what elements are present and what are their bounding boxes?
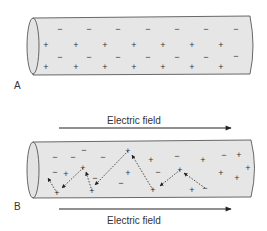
positive-charge: + <box>43 40 48 50</box>
negative-charge: − <box>86 52 91 62</box>
negative-charge: − <box>100 152 105 162</box>
field-label-top: Electric field <box>107 115 161 126</box>
negative-charge: − <box>86 24 91 34</box>
positive-charge: + <box>218 168 223 178</box>
negative-charge: − <box>145 52 150 62</box>
negative-charge: − <box>115 24 120 34</box>
positive-charge: + <box>125 146 130 156</box>
positive-charge: + <box>218 62 223 72</box>
negative-charge: − <box>57 24 62 34</box>
positive-charge: + <box>54 188 59 198</box>
positive-charge: + <box>160 62 165 72</box>
negative-charge: − <box>81 145 86 155</box>
negative-charge: − <box>145 24 150 34</box>
positive-charge: + <box>73 40 78 50</box>
positive-charge: + <box>102 62 107 72</box>
positive-charge: + <box>63 169 68 179</box>
positive-charge: + <box>131 40 136 50</box>
negative-charge: − <box>174 151 179 161</box>
negative-charge: − <box>233 51 238 61</box>
positive-charge: + <box>125 168 130 178</box>
positive-charge: + <box>80 163 85 173</box>
positive-charge: + <box>73 62 78 72</box>
positive-charge: + <box>234 173 239 183</box>
positive-charge: + <box>177 165 182 175</box>
positive-charge: + <box>150 185 155 195</box>
negative-charge: − <box>155 167 160 177</box>
field-label-bottom: Electric field <box>107 215 161 226</box>
positive-charge: + <box>189 185 194 195</box>
positive-charge: + <box>160 40 165 50</box>
positive-charge: + <box>218 40 223 50</box>
negative-charge: − <box>233 24 238 34</box>
negative-charge: − <box>52 167 57 177</box>
positive-charge: + <box>43 62 48 72</box>
positive-charge: + <box>245 163 250 173</box>
positive-charge: + <box>189 40 194 50</box>
positive-charge: + <box>148 155 153 165</box>
positive-charge: + <box>236 150 241 160</box>
negative-charge: − <box>174 24 179 34</box>
panel-label-a: A <box>14 80 21 91</box>
panel-label-b: B <box>14 201 21 212</box>
positive-charge: + <box>131 62 136 72</box>
positive-charge: + <box>200 155 205 165</box>
negative-charge: − <box>221 150 226 160</box>
positive-charge: + <box>189 62 194 72</box>
negative-charge: − <box>118 178 123 188</box>
negative-charge: − <box>202 183 207 193</box>
negative-charge: − <box>92 173 97 183</box>
negative-charge: − <box>70 152 75 162</box>
negative-charge: − <box>203 52 208 62</box>
negative-charge: − <box>115 52 120 62</box>
negative-charge: − <box>57 52 62 62</box>
negative-charge: − <box>203 24 208 34</box>
positive-charge: + <box>102 40 107 50</box>
diagram: −−−−−−−+++++++−−−−−−−+++++++ A Electric … <box>0 0 267 231</box>
negative-charge: − <box>52 152 57 162</box>
negative-charge: − <box>174 52 179 62</box>
positive-charge: + <box>89 186 94 196</box>
